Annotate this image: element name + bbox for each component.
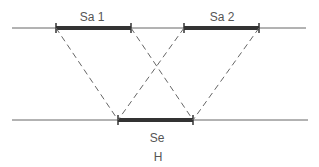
label-sa1: Sa 1	[80, 10, 105, 24]
label-sa2: Sa 2	[210, 10, 235, 24]
label-h: H	[154, 150, 163, 164]
dashed-projections	[56, 28, 259, 120]
timing-diagram: Sa 1 Sa 2 Se H	[0, 0, 319, 167]
label-se: Se	[150, 131, 165, 145]
